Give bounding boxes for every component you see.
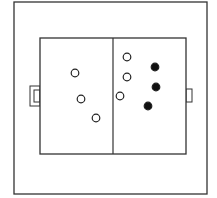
- open-player-marker: [71, 69, 79, 77]
- open-player-marker: [77, 95, 85, 103]
- open-player-marker: [92, 114, 100, 122]
- right-goal: [186, 89, 192, 102]
- open-player-marker: [123, 53, 131, 61]
- filled-player-marker: [152, 83, 160, 91]
- filled-player-marker: [151, 63, 159, 71]
- open-player-marker: [116, 92, 124, 100]
- left-goal: [30, 86, 40, 106]
- open-player-marker: [123, 73, 131, 81]
- field-diagram: [0, 0, 217, 198]
- filled-player-marker: [144, 102, 152, 110]
